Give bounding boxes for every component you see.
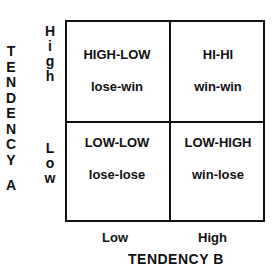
x-axis-title: TENDENCY B (128, 251, 224, 267)
y-tick-letter: h (46, 69, 55, 84)
y-tick-low: L o w (42, 141, 58, 186)
cell-title: LOW-LOW (85, 135, 150, 150)
cell-low-low: LOW-LOW lose-lose (67, 123, 167, 220)
x-tick-low: Low (102, 230, 128, 245)
y-tick-letter: o (46, 156, 55, 171)
cell-outcome: lose-win (91, 79, 143, 94)
y-title-letter: N (6, 122, 16, 138)
x-tick-high: High (198, 230, 227, 245)
quadrant-grid: HIGH-LOW lose-win HI-HI win-win LOW-LOW … (65, 20, 265, 222)
y-tick-high: H i g h (42, 24, 58, 84)
cell-title: LOW-HIGH (185, 135, 252, 150)
cell-outcome: lose-lose (89, 167, 145, 182)
cell-title: HI-HI (203, 47, 233, 62)
y-tick-letter: i (48, 39, 52, 54)
y-tick-letter: w (45, 171, 56, 186)
cell-hi-hi: HI-HI win-win (171, 22, 265, 121)
y-title-letter: N (6, 75, 16, 91)
y-title-letter: C (6, 137, 16, 153)
cell-low-high: LOW-HIGH win-lose (171, 123, 265, 220)
y-title-letter: D (6, 91, 16, 107)
y-tick-letter: L (46, 141, 55, 156)
cell-high-low: HIGH-LOW lose-win (67, 22, 167, 121)
y-title-letter: A (6, 178, 16, 194)
y-title-letter: E (6, 60, 15, 76)
y-title-letter: Y (6, 153, 15, 169)
y-title-letter: T (7, 44, 16, 60)
cell-outcome: win-lose (192, 167, 244, 182)
y-tick-letter: g (46, 54, 55, 69)
y-title-letter: E (6, 106, 15, 122)
cell-outcome: win-win (194, 79, 242, 94)
cell-title: HIGH-LOW (83, 47, 150, 62)
y-tick-letter: H (45, 24, 55, 39)
y-axis-title: T E N D E N C Y A (3, 44, 19, 194)
